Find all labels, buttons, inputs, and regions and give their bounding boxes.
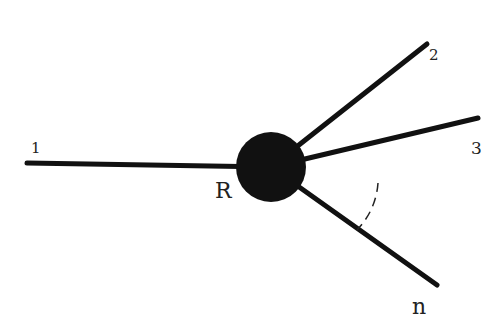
node-r xyxy=(236,132,306,202)
label-edge-2: 2 xyxy=(429,46,439,64)
label-node-r: R xyxy=(215,178,233,203)
label-edge-n: n xyxy=(412,294,426,319)
edge-1 xyxy=(27,163,271,167)
label-edge-1: 1 xyxy=(31,139,41,157)
star-diagram: 1 2 3 R n xyxy=(0,0,502,330)
label-edge-3: 3 xyxy=(471,138,482,158)
angle-arc-dashed xyxy=(357,183,378,230)
